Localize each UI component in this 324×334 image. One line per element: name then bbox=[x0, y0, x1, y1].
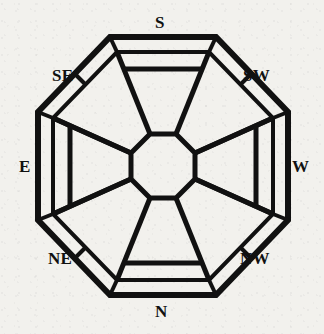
spoke-se bbox=[53, 118, 131, 153]
direction-label-w: W bbox=[292, 158, 309, 175]
direction-label-n: N bbox=[155, 303, 168, 320]
spoke-sw bbox=[195, 118, 273, 153]
spoke-ne bbox=[53, 179, 131, 214]
spoke-n-right bbox=[176, 198, 209, 280]
direction-label-nw: NW bbox=[240, 250, 270, 267]
inner-band-octagon bbox=[53, 52, 273, 280]
cardinal-crossbar-group bbox=[70, 69, 256, 263]
figure-canvas: S SE SW E W NE NW N bbox=[0, 0, 324, 334]
spoke-s-left bbox=[117, 52, 150, 134]
mid-tick-se bbox=[74, 73, 85, 84]
spoke-nw bbox=[195, 179, 273, 214]
direction-label-se: SE bbox=[52, 67, 73, 84]
diagonal-mid-tick-group bbox=[74, 73, 252, 259]
direction-label-s: S bbox=[155, 14, 165, 31]
direction-label-ne: NE bbox=[48, 250, 72, 267]
center-octagon bbox=[131, 134, 195, 198]
spoke-n-left bbox=[117, 198, 150, 280]
compass-rose-diagram bbox=[0, 0, 324, 334]
direction-label-sw: SW bbox=[243, 67, 270, 84]
direction-label-e: E bbox=[19, 158, 31, 175]
spoke-s-right bbox=[176, 52, 209, 134]
mid-tick-ne bbox=[74, 248, 85, 259]
